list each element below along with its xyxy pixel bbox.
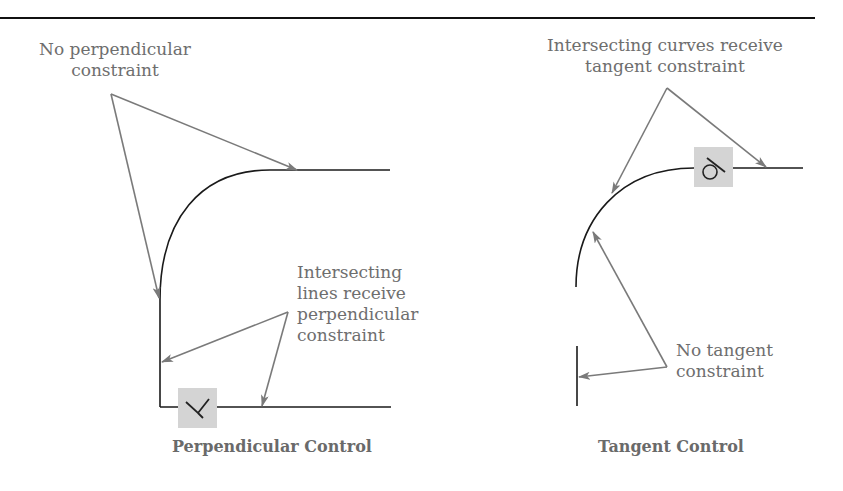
callout-line: constraint <box>297 325 418 346</box>
leader-no-tangent <box>579 232 667 377</box>
callout-tangent: Intersecting curves receive tangent cons… <box>520 35 810 77</box>
callout-line: No tangent <box>676 340 773 361</box>
leader-tangent <box>612 88 766 193</box>
callout-perpendicular: Intersecting lines receive perpendicular… <box>297 262 418 346</box>
callout-line: No perpendicular <box>20 39 210 60</box>
callout-no-tangent: No tangent constraint <box>676 340 773 382</box>
caption-tangent-control: Tangent Control <box>598 437 744 456</box>
perpendicular-icon <box>178 388 217 428</box>
callout-line: perpendicular <box>297 304 418 325</box>
leader-no-perpendicular <box>111 94 297 298</box>
callout-line: tangent constraint <box>520 56 810 77</box>
callout-line: Intersecting <box>297 262 418 283</box>
callout-line: Intersecting curves receive <box>520 35 810 56</box>
callout-line: constraint <box>676 361 773 382</box>
tangent-icon <box>694 147 733 187</box>
callout-line: constraint <box>20 60 210 81</box>
caption-perpendicular-control: Perpendicular Control <box>172 437 372 456</box>
callout-no-perpendicular: No perpendicular constraint <box>20 39 210 81</box>
callout-line: lines receive <box>297 283 418 304</box>
